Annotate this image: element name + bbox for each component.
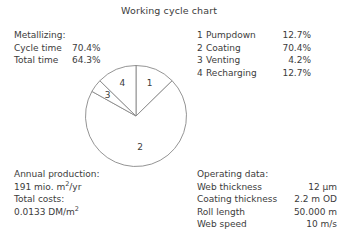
web-speed-label: Web speed	[197, 218, 247, 231]
pie-legend: 1Pumpdown 12.7% 2Coating 70.4% 3Venting …	[197, 29, 257, 79]
metallizing-row: Total time 64.3%	[14, 54, 66, 67]
legend-item-label: Recharging	[206, 67, 257, 80]
pie-chart-svg	[84, 64, 188, 168]
legend-item-number: 4	[197, 67, 206, 80]
roll-length-value: 50.000 m	[263, 206, 337, 219]
legend-item-value: 12.7%	[273, 67, 311, 80]
annual-production-value: 191 mio. m2/yr	[14, 181, 100, 194]
web-thickness-label: Web thickness	[197, 181, 262, 194]
legend-item: 1Pumpdown 12.7%	[197, 29, 257, 42]
metallizing-cycle-time-label: Cycle time	[14, 42, 62, 55]
metallizing-block: Metallizing: Cycle time 70.4% Total time…	[14, 29, 66, 67]
page-title: Working cycle chart	[0, 5, 338, 16]
web-speed-value: 10 m/s	[263, 218, 337, 231]
legend-item-value: 4.2%	[273, 54, 311, 67]
metallizing-heading: Metallizing:	[14, 29, 66, 42]
working-cycle-chart-page: Working cycle chart Metallizing: Cycle t…	[0, 0, 338, 235]
legend-item: 2Coating 70.4%	[197, 42, 257, 55]
legend-item: 4Recharging 12.7%	[197, 67, 257, 80]
legend-item-value: 70.4%	[273, 42, 311, 55]
legend-item-number: 3	[197, 54, 206, 67]
operating-data-row: Roll length 50.000 m	[197, 206, 277, 219]
operating-data-block: Operating data: Web thickness 12 µm Coat…	[197, 168, 277, 231]
coating-thickness-value: 2.2 m OD	[263, 193, 337, 206]
legend-item-label: Coating	[206, 42, 241, 55]
metallizing-total-time-label: Total time	[14, 54, 58, 67]
total-costs-value: 0.0133 DM/m2	[14, 206, 100, 219]
operating-data-row: Web thickness 12 µm	[197, 181, 277, 194]
operating-data-row: Coating thickness 2.2 m OD	[197, 193, 277, 206]
roll-length-label: Roll length	[197, 206, 245, 219]
total-costs-heading: Total costs:	[14, 193, 100, 206]
annual-production-block: Annual production: 191 mio. m2/yr Total …	[14, 168, 100, 218]
pie-slice-label-1: 1	[147, 78, 153, 88]
annual-production-heading: Annual production:	[14, 168, 100, 181]
legend-item-number: 2	[197, 42, 206, 55]
metallizing-row: Cycle time 70.4%	[14, 42, 66, 55]
legend-item: 3Venting 4.2%	[197, 54, 257, 67]
operating-data-heading: Operating data:	[197, 168, 277, 181]
legend-item-label: Venting	[206, 54, 240, 67]
legend-item-value: 12.7%	[273, 29, 311, 42]
pie-slice-label-3: 3	[105, 90, 111, 100]
operating-data-row: Web speed 10 m/s	[197, 218, 277, 231]
metallizing-cycle-time-value: 70.4%	[72, 42, 114, 55]
pie-slice-label-4: 4	[119, 78, 125, 88]
legend-item-label: Pumpdown	[206, 29, 256, 42]
legend-item-number: 1	[197, 29, 206, 42]
pie-slice-label-2: 2	[137, 142, 143, 152]
web-thickness-value: 12 µm	[263, 181, 337, 194]
pie-chart: 1 2 3 4	[84, 64, 188, 168]
